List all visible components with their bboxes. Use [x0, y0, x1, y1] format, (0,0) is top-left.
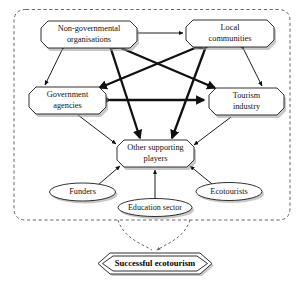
- node-label-local-communities-line1: Local: [221, 23, 241, 32]
- node-label-ecotourists: Ecotourists: [210, 187, 247, 196]
- edge-government-agencies-other-supporting-players: [78, 115, 116, 144]
- node-label-government-agencies-line1: Government: [47, 90, 89, 99]
- node-label-funders: Funders: [69, 187, 96, 196]
- node-non-governmental-organisations[interactable]: Non-governmental organisations: [41, 21, 139, 51]
- edge-ngo-other-supporting-players: [111, 49, 140, 138]
- node-label-other-supporting-players-line1: Other supporting: [127, 143, 183, 152]
- node-funders[interactable]: Funders: [50, 183, 118, 204]
- node-label-successful-ecotourism: Successful ecotourism: [115, 258, 196, 268]
- funnel-left: [118, 220, 152, 250]
- ecotourism-stakeholder-diagram: Non-governmental organisations Local com…: [0, 0, 302, 282]
- edge-tourism-industry-other-supporting-players: [194, 117, 231, 145]
- edge-ngo-government-agencies: [45, 50, 62, 85]
- node-label-other-supporting-players-line2: players: [144, 154, 168, 163]
- node-label-tourism-industry-line1: Tourism: [233, 91, 261, 100]
- edge-funders-other-supporting-players: [98, 166, 120, 185]
- node-successful-ecotourism[interactable]: Successful ecotourism: [98, 253, 214, 276]
- funnel-right: [157, 220, 190, 250]
- edge-ngo-tourism-industry: [121, 48, 215, 88]
- node-local-communities[interactable]: Local communities: [186, 20, 276, 50]
- node-label-education-sector: Education sector: [128, 203, 182, 212]
- edge-ecotourists-other-supporting-players: [190, 166, 212, 184]
- node-label-local-communities-line2: communities: [209, 34, 252, 43]
- edge-local-communities-other-supporting-players: [172, 49, 205, 138]
- node-other-supporting-players[interactable]: Other supporting players: [117, 140, 196, 170]
- node-label-tourism-industry-line2: industry: [233, 102, 261, 111]
- node-education-sector[interactable]: Education sector: [118, 199, 194, 220]
- node-label-ngo-line2: organisations: [67, 35, 111, 44]
- node-label-ngo-line1: Non-governmental: [58, 24, 121, 33]
- node-ecotourists[interactable]: Ecotourists: [196, 183, 264, 204]
- node-tourism-industry[interactable]: Tourism industry: [209, 88, 286, 118]
- diagram-canvas: Non-governmental organisations Local com…: [0, 0, 302, 282]
- node-label-government-agencies-line2: agencies: [53, 101, 82, 110]
- node-government-agencies[interactable]: Government agencies: [29, 87, 108, 117]
- edge-local-communities-tourism-industry: [244, 50, 262, 86]
